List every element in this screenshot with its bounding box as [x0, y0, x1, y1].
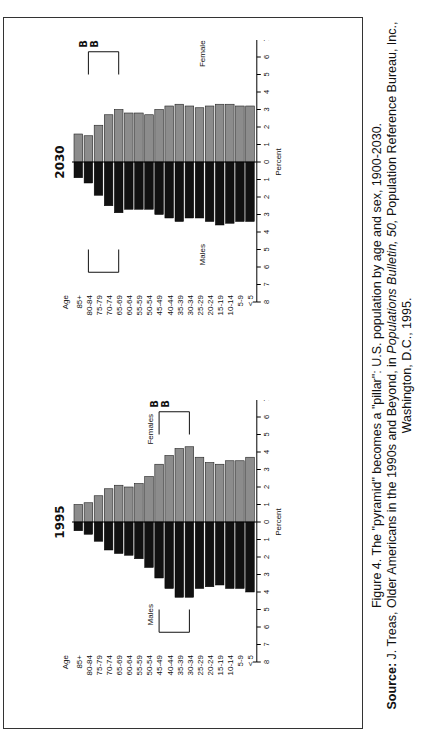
age-tick-label: 80-84 — [85, 294, 94, 315]
males-label: Males — [146, 604, 155, 625]
female-bar — [175, 104, 184, 162]
females-label: Females — [146, 414, 155, 445]
age-tick-label: 20-24 — [206, 654, 215, 675]
male-bar — [215, 162, 224, 225]
female-bar — [185, 106, 194, 162]
percent-tick-label: 2 — [262, 555, 271, 559]
age-tick-label: 85+ — [75, 655, 84, 669]
male-bar — [125, 162, 134, 209]
percent-tick-label: 4 — [262, 590, 271, 594]
female-bar — [215, 464, 224, 522]
female-bar — [165, 456, 174, 523]
percent-tick-label: 3 — [262, 107, 271, 111]
female-bar — [185, 447, 194, 522]
percent-tick-label: 3 — [262, 467, 271, 471]
male-bar — [226, 522, 235, 589]
percent-tick-label: 2 — [262, 485, 271, 489]
caption-source: Source: J. Treas, Older Americans in the… — [385, 0, 400, 731]
age-tick-label: 60-64 — [125, 294, 134, 315]
female-bar — [114, 110, 123, 163]
male-bar — [84, 522, 93, 534]
age-axis-label: Age — [61, 654, 70, 669]
percent-tick-label: 7 — [262, 40, 271, 42]
female-bar — [155, 464, 164, 522]
baby-boom-bracket-males — [88, 250, 118, 273]
female-bar — [94, 496, 103, 522]
pyramid-svg-1995: Age85+80-8475-7970-7465-6960-6455-5950-5… — [4, 400, 304, 700]
baby-boom-bracket-females — [88, 52, 118, 75]
female-bar — [195, 108, 204, 162]
age-tick-label: 35-39 — [176, 654, 185, 675]
male-bar — [104, 162, 113, 206]
age-tick-label: 15-19 — [216, 294, 225, 315]
pyramid-chart-2030: Age85+80-8475-7970-7465-6960-6455-5950-5… — [4, 40, 304, 340]
male-bar — [114, 522, 123, 554]
male-bar — [195, 522, 204, 589]
age-tick-label: 45-49 — [155, 294, 164, 315]
female-bar — [175, 449, 184, 523]
percent-tick-label: 4 — [262, 90, 271, 94]
percent-tick-label: 1 — [262, 142, 271, 146]
percent-axis-label: Percent — [274, 147, 283, 175]
male-bar — [74, 162, 83, 178]
percent-tick-label: 6 — [262, 415, 271, 419]
male-bar — [145, 522, 154, 568]
female-bar — [236, 461, 245, 522]
male-bar — [135, 162, 144, 209]
female-bar — [74, 505, 83, 523]
male-bar — [226, 162, 235, 223]
age-tick-label: 50-54 — [145, 294, 154, 315]
percent-tick-label: 7 — [262, 400, 271, 402]
male-bar — [205, 162, 214, 222]
pyramid-chart-1995: Age85+80-8475-7970-7465-6960-6455-5950-5… — [4, 400, 304, 700]
age-tick-label: 45-49 — [155, 654, 164, 675]
female-bar — [145, 477, 154, 523]
percent-tick-label: 2 — [262, 125, 271, 129]
baby-boom-bracket-females — [159, 412, 189, 435]
male-bar — [104, 522, 113, 550]
percent-tick-label: 6 — [262, 625, 271, 629]
female-bar — [135, 113, 144, 162]
age-tick-label: 80-84 — [85, 654, 94, 675]
female-bar — [104, 489, 113, 522]
age-tick-label: < 5 — [246, 654, 255, 666]
percent-tick-label: 5 — [262, 72, 271, 76]
age-tick-label: 60-64 — [125, 654, 134, 675]
caption-source-line3: Washington, D.C., 1995. — [400, 0, 415, 731]
age-tick-label: < 5 — [246, 294, 255, 306]
male-bar — [165, 522, 174, 589]
female-bar — [104, 115, 113, 162]
male-bar — [185, 522, 194, 597]
male-bar — [125, 522, 134, 555]
age-tick-label: 30-34 — [186, 294, 195, 315]
female-bar — [84, 136, 93, 162]
percent-tick-label: 5 — [262, 607, 271, 611]
female-bar — [165, 106, 174, 162]
percent-tick-label: 3 — [262, 572, 271, 576]
percent-tick-label: 7 — [262, 282, 271, 286]
percent-tick-label: 1 — [262, 537, 271, 541]
males-label: Males — [198, 244, 207, 265]
age-tick-label: 85+ — [75, 295, 84, 309]
male-bar — [94, 522, 103, 541]
age-tick-label: 70-74 — [105, 654, 114, 675]
percent-tick-label: 8 — [262, 300, 271, 304]
age-tick-label: 70-74 — [105, 294, 114, 315]
age-tick-label: 30-34 — [186, 654, 195, 675]
female-bar — [246, 457, 255, 522]
male-bar — [236, 522, 245, 589]
male-bar — [94, 162, 103, 195]
percent-tick-label: 1 — [262, 502, 271, 506]
female-bar — [205, 463, 214, 523]
female-bar — [205, 106, 214, 162]
female-bar — [246, 106, 255, 162]
percent-tick-label: 7 — [262, 642, 271, 646]
age-tick-label: 40-44 — [166, 294, 175, 315]
male-bar — [246, 522, 255, 592]
age-tick-label: 5-9 — [236, 294, 245, 306]
age-tick-label: 35-39 — [176, 294, 185, 315]
female-bar — [195, 457, 204, 522]
male-bar — [205, 522, 214, 587]
percent-tick-label: 8 — [262, 660, 271, 664]
baby-boom-bracket-males — [159, 610, 189, 633]
